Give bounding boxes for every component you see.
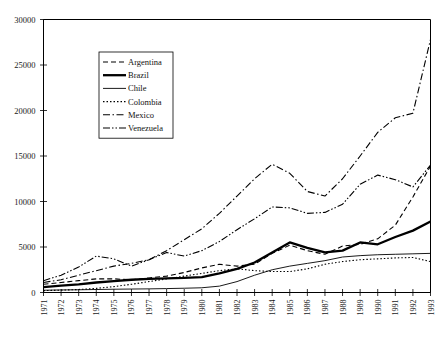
x-tick-label: 1989	[356, 300, 365, 316]
y-tick-label: 10000	[14, 197, 35, 207]
x-tick-label: 1975	[110, 300, 119, 316]
y-tick-label: 5000	[19, 242, 36, 252]
y-tick-label: 15000	[14, 151, 35, 161]
x-tick-label: 1974	[92, 300, 101, 316]
x-tick-label: 1979	[180, 300, 189, 316]
y-tick-label: 0	[31, 288, 35, 298]
x-tick-label: 1992	[409, 300, 418, 316]
x-tick-label: 1972	[57, 300, 66, 316]
x-tick-label: 1986	[303, 300, 312, 316]
x-tick-label: 1976	[127, 300, 136, 316]
legend-label-argentina: Argentina	[128, 57, 162, 67]
legend-label-chile: Chile	[128, 83, 147, 93]
chart-legend: ArgentinaBrazilChileColombiaMexicoVenezu…	[99, 52, 173, 138]
x-tick-label: 1984	[268, 300, 277, 316]
x-tick-label: 1978	[163, 300, 172, 316]
x-tick-label: 1971	[40, 300, 49, 316]
chart-background	[0, 0, 448, 339]
legend-label-mexico: Mexico	[128, 110, 154, 120]
x-tick-label: 1990	[374, 300, 383, 316]
x-tick-label: 1988	[339, 300, 348, 316]
x-tick-label: 1985	[286, 300, 295, 316]
x-tick-label: 1991	[391, 300, 400, 316]
x-tick-label: 1983	[251, 300, 260, 316]
chart-canvas: 050001000015000200002500030000 197119721…	[0, 0, 448, 339]
y-tick-label: 30000	[14, 15, 35, 25]
x-tick-label: 1980	[198, 300, 207, 316]
legend-label-colombia: Colombia	[128, 97, 162, 107]
x-tick-label: 1981	[215, 300, 224, 316]
x-tick-label: 1987	[321, 300, 330, 316]
y-tick-label: 25000	[14, 60, 35, 70]
x-tick-label: 1982	[233, 300, 242, 316]
legend-label-brazil: Brazil	[128, 70, 149, 80]
x-tick-label: 1977	[145, 300, 154, 316]
legend-label-venezuela: Venezuela	[128, 123, 163, 133]
y-tick-label: 20000	[14, 106, 35, 116]
x-tick-label: 1993	[427, 300, 436, 316]
x-tick-label: 1973	[75, 300, 84, 316]
line-chart: 050001000015000200002500030000 197119721…	[0, 0, 448, 339]
